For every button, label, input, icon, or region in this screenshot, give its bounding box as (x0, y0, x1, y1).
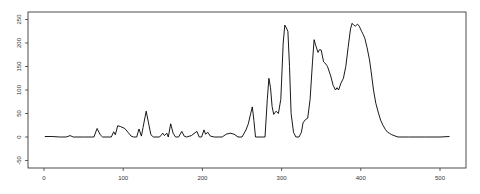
x-tick-label: 400 (356, 175, 367, 181)
x-tick-label: 100 (118, 175, 129, 181)
y-tick-label: 0 (16, 135, 22, 139)
x-axis: 0100200300400500 (42, 168, 445, 181)
y-axis: -50050100150200250 (16, 14, 28, 165)
data-line (45, 23, 450, 137)
y-tick-label: 50 (16, 110, 22, 117)
y-tick-label: 200 (16, 37, 22, 48)
plot-frame (28, 12, 466, 168)
line-chart: 0100200300400500 -50050100150200250 (0, 0, 480, 194)
x-tick-label: 200 (197, 175, 208, 181)
chart-canvas: 0100200300400500 -50050100150200250 (0, 0, 480, 194)
y-tick-label: -50 (16, 156, 22, 165)
x-tick-label: 300 (277, 175, 288, 181)
y-tick-label: 100 (16, 84, 22, 95)
y-tick-label: 250 (16, 14, 22, 25)
x-tick-label: 500 (435, 175, 446, 181)
y-tick-label: 150 (16, 61, 22, 72)
x-tick-label: 0 (42, 175, 46, 181)
